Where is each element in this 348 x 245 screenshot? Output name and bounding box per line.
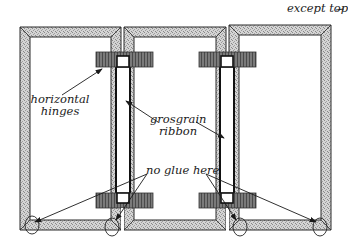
panel-gap-right <box>226 208 229 230</box>
hinge-bottom-left <box>96 193 153 208</box>
label-horizontal-hinges: horizontal hinges <box>30 93 90 117</box>
label-no-glue-here: no glue here <box>146 164 219 176</box>
hinge-top-left <box>96 52 153 67</box>
grosgrain-ribbon-right <box>220 55 234 197</box>
hinge-bottom-right <box>199 193 256 208</box>
label-grosgrain-ribbon: grosgrain ribbon <box>150 113 206 137</box>
grosgrain-ribbon-left <box>116 55 130 197</box>
label-grosgrain-ribbon-line2: ribbon <box>150 125 206 137</box>
label-horizontal-hinges-line2: hinges <box>30 105 90 117</box>
hinge-top-right <box>199 52 256 67</box>
label-except-top: except top <box>287 2 348 14</box>
